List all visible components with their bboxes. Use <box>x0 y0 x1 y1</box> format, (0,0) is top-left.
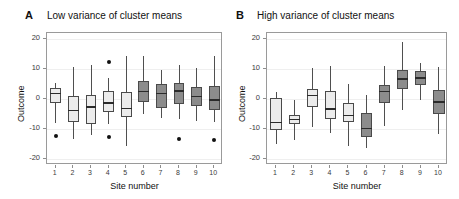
y-tick-label: -10 <box>18 123 40 132</box>
y-tick-mark <box>263 98 266 99</box>
y-tick-mark <box>263 38 266 39</box>
box <box>174 83 185 104</box>
x-tick-mark <box>438 165 439 168</box>
x-tick-mark <box>384 165 385 168</box>
median-line <box>191 96 202 98</box>
x-tick-label: 6 <box>356 169 376 176</box>
x-tick-label: 10 <box>203 169 223 176</box>
panel-b: B High variance of cluster means Outcome… <box>229 0 459 199</box>
median-line <box>86 106 97 108</box>
panel-b-title: High variance of cluster means <box>257 10 394 21</box>
median-line <box>50 93 61 95</box>
x-tick-label: 4 <box>319 169 339 176</box>
y-tick-mark <box>43 128 46 129</box>
median-line <box>270 122 281 124</box>
y-tick-mark <box>263 158 266 159</box>
y-tick-label: 10 <box>18 63 40 72</box>
y-tick-label: -20 <box>18 153 40 162</box>
x-tick-label: 5 <box>337 169 357 176</box>
panel-a-plot-area <box>46 32 222 164</box>
panel-a-letter: A <box>25 9 33 21</box>
panel-a-x-axis-title: Site number <box>47 181 222 191</box>
x-tick-mark <box>213 165 214 168</box>
y-tick-label: 0 <box>18 93 40 102</box>
x-tick-label: 10 <box>428 169 448 176</box>
median-line <box>361 128 372 130</box>
y-tick-label: 10 <box>238 63 260 72</box>
median-line <box>121 108 132 110</box>
y-tick-label: 20 <box>238 33 260 42</box>
x-tick-mark <box>402 165 403 168</box>
y-tick-label: -10 <box>238 123 260 132</box>
median-line <box>379 91 390 93</box>
x-tick-label: 9 <box>410 169 430 176</box>
outlier-point <box>177 137 181 141</box>
y-tick-mark <box>263 128 266 129</box>
x-tick-mark <box>329 165 330 168</box>
x-tick-mark <box>72 165 73 168</box>
box <box>361 113 372 137</box>
median-line <box>343 115 354 117</box>
box <box>307 89 318 106</box>
panel-b-y-axis-title: Outcome <box>237 85 247 122</box>
box <box>50 88 61 103</box>
y-tick-label: -20 <box>238 153 260 162</box>
median-line <box>325 108 336 110</box>
box <box>270 98 281 130</box>
outlier-point <box>107 60 111 64</box>
y-tick-mark <box>43 158 46 159</box>
x-tick-mark <box>275 165 276 168</box>
median-line <box>138 91 149 93</box>
median-line <box>415 77 426 79</box>
outlier-point <box>212 138 216 142</box>
panel-b-letter: B <box>236 9 244 21</box>
x-tick-label: 1 <box>265 169 285 176</box>
box <box>379 85 390 103</box>
median-line <box>397 78 408 80</box>
x-tick-mark <box>293 165 294 168</box>
x-tick-mark <box>420 165 421 168</box>
box <box>343 103 354 123</box>
x-tick-mark <box>196 165 197 168</box>
x-tick-mark <box>160 165 161 168</box>
panel-b-plot-area <box>266 32 447 164</box>
median-line <box>103 102 114 104</box>
y-tick-mark <box>263 68 266 69</box>
box <box>325 91 336 119</box>
x-tick-mark <box>347 165 348 168</box>
x-tick-label: 2 <box>283 169 303 176</box>
median-line <box>68 110 79 112</box>
x-tick-mark <box>178 165 179 168</box>
x-tick-mark <box>55 165 56 168</box>
x-tick-mark <box>108 165 109 168</box>
median-line <box>433 101 444 103</box>
box <box>209 86 220 110</box>
median-line <box>307 95 318 97</box>
gridline-y <box>47 159 221 160</box>
box <box>121 92 132 118</box>
median-line <box>174 90 185 92</box>
gridline-y <box>47 39 221 40</box>
x-tick-mark <box>311 165 312 168</box>
panel-b-x-axis-title: Site number <box>267 181 447 191</box>
x-tick-label: 3 <box>301 169 321 176</box>
panel-a-title: Low variance of cluster means <box>47 10 182 21</box>
boxplot-figure: A Low variance of cluster means Outcome … <box>0 0 459 199</box>
x-tick-mark <box>90 165 91 168</box>
outlier-point <box>54 134 58 138</box>
y-tick-mark <box>43 38 46 39</box>
box <box>156 84 167 108</box>
panel-a-y-axis-title: Outcome <box>16 85 26 122</box>
y-tick-mark <box>43 68 46 69</box>
x-tick-label: 7 <box>374 169 394 176</box>
gridline-y <box>267 159 446 160</box>
x-tick-mark <box>143 165 144 168</box>
median-line <box>289 119 300 121</box>
y-tick-label: 20 <box>18 33 40 42</box>
x-tick-label: 8 <box>392 169 412 176</box>
median-line <box>156 93 167 95</box>
x-tick-mark <box>125 165 126 168</box>
y-tick-mark <box>43 98 46 99</box>
box <box>86 95 97 123</box>
panel-a: A Low variance of cluster means Outcome … <box>0 0 229 199</box>
